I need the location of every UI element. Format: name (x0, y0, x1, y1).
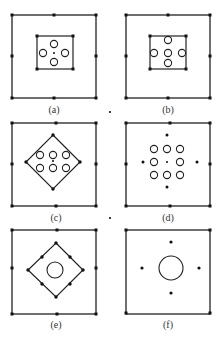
inner-pin-icon (36, 35, 39, 38)
hole-circle (163, 171, 170, 178)
hole-circle (164, 49, 171, 56)
frame-pin-icon (167, 97, 170, 100)
hole-circle (36, 164, 43, 171)
frame-pin-icon (95, 205, 98, 208)
hole-circle (159, 256, 183, 280)
frame-pin-icon (209, 14, 212, 17)
frame-pin-icon (169, 205, 172, 208)
panel-label: (d) (162, 212, 174, 224)
figure-canvas: (a)(b)(c)(d)(e)(f) (0, 0, 224, 340)
diamond-pin-icon (40, 255, 43, 258)
point-dot (169, 240, 172, 243)
frame-pin-icon (95, 97, 98, 100)
hole-circle (61, 49, 68, 56)
diamond-pin-icon (78, 160, 81, 163)
inner-pin-icon (72, 35, 75, 38)
frame-pin-icon (95, 229, 98, 232)
frame-pin-icon (125, 55, 128, 58)
point-dot (53, 52, 55, 54)
hole-circle (176, 171, 183, 178)
frame-pin-icon (209, 229, 212, 232)
frame-pin-icon (167, 14, 170, 17)
frame-pin-icon (11, 313, 14, 316)
inner-pin-icon (185, 35, 188, 38)
frame-pin-icon (11, 267, 14, 270)
diamond-pin-icon (26, 268, 29, 271)
hole-circle (163, 145, 170, 152)
diamond-pin-icon (81, 268, 84, 271)
hole-circle (178, 49, 185, 56)
frame-pin-icon (95, 313, 98, 316)
frame-pin-icon (95, 163, 98, 166)
frame-pin-icon (56, 229, 59, 232)
hole-circle (150, 145, 157, 152)
frame-pin-icon (209, 205, 212, 208)
panel-d: (d) (125, 122, 212, 225)
panel-label: (c) (50, 212, 61, 224)
frame-pin-icon (11, 163, 14, 166)
frame-pin-icon (125, 14, 128, 17)
frame-pin-icon (125, 163, 128, 166)
hole-circle (150, 49, 157, 56)
panel-c: (c) (11, 122, 98, 225)
frame-pin-icon (209, 55, 212, 58)
frame-pin-icon (11, 97, 14, 100)
stray-dot (109, 111, 111, 113)
panel-label: (e) (50, 319, 61, 331)
point-dot (166, 186, 169, 189)
panel-f: (f) (125, 229, 212, 332)
panel-label: (a) (48, 104, 59, 116)
hole-circle (62, 151, 69, 158)
hole-circle (164, 59, 171, 66)
frame-pin-icon (209, 163, 212, 166)
diamond-pin-icon (24, 160, 27, 163)
inner-pin-icon (149, 35, 152, 38)
hole-circle (150, 171, 157, 178)
point-dot (140, 266, 143, 269)
frame-pin-icon (11, 229, 14, 232)
frame-pin-icon (125, 97, 128, 100)
hole-circle (50, 58, 57, 65)
diamond-pin-icon (68, 255, 71, 258)
point-dot (196, 161, 199, 164)
inner-pin-icon (149, 68, 152, 71)
outer-frame (12, 15, 96, 98)
panel-e: (e) (11, 229, 98, 332)
diamond-pin-icon (51, 187, 54, 190)
frame-pin-icon (11, 55, 14, 58)
frame-pin-icon (11, 14, 14, 17)
frame-pin-icon (95, 14, 98, 17)
hole-circle (150, 158, 157, 165)
inner-pin-icon (185, 68, 188, 71)
stray-dot (109, 217, 111, 219)
frame-pin-icon (125, 205, 128, 208)
panels-group: (a)(b)(c)(d)(e)(f) (11, 14, 212, 332)
inner-pin-icon (36, 68, 39, 71)
hole-circle (36, 151, 43, 158)
hole-circle (49, 151, 56, 158)
inner-pin-icon (72, 68, 75, 71)
frame-pin-icon (209, 312, 212, 315)
frame-pin-icon (125, 229, 128, 232)
diamond-pin-icon (54, 295, 57, 298)
frame-pin-icon (125, 312, 128, 315)
frame-pin-icon (209, 97, 212, 100)
diamond-pin-icon (68, 282, 71, 285)
frame-pin-icon (56, 313, 59, 316)
frame-pin-icon (11, 205, 14, 208)
panel-label: (b) (162, 104, 174, 116)
frame-pin-icon (169, 122, 172, 125)
diamond-pin-icon (40, 282, 43, 285)
hole-circle (164, 36, 171, 43)
frame-pin-icon (53, 14, 56, 17)
panel-b: (b) (125, 14, 212, 117)
point-dot (166, 161, 168, 163)
frame-pin-icon (95, 55, 98, 58)
frame-pin-icon (125, 122, 128, 125)
diamond-pin-icon (51, 133, 54, 136)
hole-circle (176, 145, 183, 152)
point-dot (52, 160, 54, 162)
frame-pin-icon (95, 122, 98, 125)
point-dot (169, 291, 172, 294)
panel-a: (a) (11, 14, 98, 117)
